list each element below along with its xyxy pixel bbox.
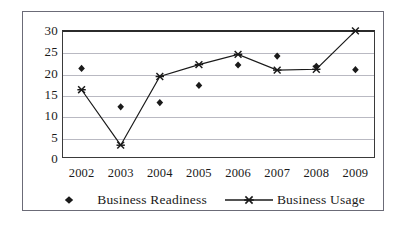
y-tick-label-0: 0 [24,152,58,165]
business-usage-point [195,61,203,68]
y-tick-label-5: 5 [24,131,58,144]
legend-entry-business-usage: Business Usage [221,193,365,207]
business-usage-point [273,67,281,74]
chart-plot-svg [62,30,375,158]
business-usage-point [156,73,164,80]
legend-entry-business-readiness: Business Readiness [41,193,207,207]
business-readiness-point [274,52,281,59]
business-usage-polyline [82,31,356,145]
y-tick-label-30: 30 [24,24,58,37]
x-line-marker-icon [221,193,277,207]
business-readiness-point [117,103,124,110]
legend-label-business-readiness: Business Readiness [97,193,207,207]
y-tick-label-20: 20 [24,67,58,80]
series-business-usage-line [82,31,356,145]
legend-label-business-usage: Business Usage [277,193,365,207]
diamond-marker-icon [41,193,97,207]
series-business-readiness-markers [78,52,358,110]
series-business-usage-markers [77,27,359,148]
business-usage-point [116,142,124,149]
business-readiness-point [352,66,359,73]
x-axis: 2002 2003 2004 2005 2006 2007 2008 2009 [62,166,375,182]
chart-legend: Business Readiness Business Usage [22,190,384,210]
x-tick-label-2009: 2009 [332,166,378,180]
business-readiness-point [78,65,85,72]
y-tick-label-15: 15 [24,88,58,101]
y-tick-label-10: 10 [24,109,58,122]
business-readiness-point [157,99,164,106]
y-tick-label-25: 25 [24,45,58,58]
y-axis: 30 25 20 15 10 5 0 [22,30,58,158]
business-usage-point [77,86,85,93]
chart-figure: 30 25 20 15 10 5 0 2002 2003 2004 2005 2… [0,0,410,230]
business-usage-point [234,51,242,58]
business-readiness-point [235,61,242,68]
business-readiness-point [196,82,203,89]
